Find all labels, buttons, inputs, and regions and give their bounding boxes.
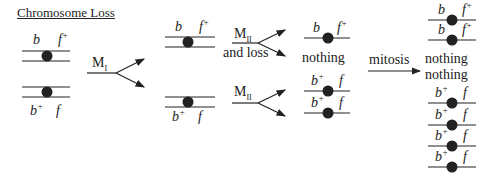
allele-label-b-plus: b+	[30, 104, 43, 118]
allele-label-f-plus: f+	[199, 20, 209, 34]
allele-label-f: f	[463, 129, 467, 143]
middle-chromosome-pair-1	[165, 37, 215, 48]
nothing-label: nothing	[425, 52, 468, 66]
allele-label-b-plus: b+	[435, 86, 448, 100]
nothing-label: nothing	[302, 51, 345, 65]
allele-label-b-plus: b+	[311, 96, 324, 110]
allele-label-b-plus: b+	[435, 129, 448, 143]
nothing-label: nothing	[425, 68, 468, 82]
allele-label-f-plus: f+	[58, 33, 68, 47]
allele-label-b: b	[438, 3, 445, 17]
allele-label-f-plus: f+	[462, 3, 472, 17]
left-chromosome-pair-1	[22, 51, 70, 62]
allele-label-b: b	[438, 23, 445, 37]
allele-label-b-plus: b+	[311, 74, 324, 88]
allele-label-f: f	[56, 104, 60, 118]
allele-label-b: b	[33, 33, 40, 47]
mitosis-label: mitosis	[369, 53, 409, 67]
meiosis2-label: MII	[234, 85, 252, 102]
middle-chromosome-pair-2	[165, 97, 215, 108]
allele-label-f: f	[339, 74, 343, 88]
allele-label-f-plus: f+	[337, 21, 347, 35]
allele-label-b-plus: b+	[435, 108, 448, 122]
meiosis2-loss-label: MII	[234, 27, 252, 44]
meiosis1-label: MI	[92, 56, 107, 73]
allele-label-f: f	[463, 86, 467, 100]
left-chromosome-pair-2	[22, 87, 70, 98]
allele-label-b-plus: b+	[435, 150, 448, 164]
chromosome-loss-diagram: Chromosome Loss b f+ b+ f MI b f+ b+ f M…	[0, 0, 492, 178]
allele-label-f: f	[339, 96, 343, 110]
allele-label-b: b	[313, 21, 320, 35]
diagram-title: Chromosome Loss	[17, 5, 115, 21]
allele-label-f: f	[198, 110, 202, 124]
and-loss-label: and loss	[223, 46, 269, 60]
allele-label-b-plus: b+	[172, 110, 185, 124]
allele-label-f: f	[463, 108, 467, 122]
allele-label-f: f	[463, 150, 467, 164]
allele-label-b: b	[175, 20, 182, 34]
allele-label-f-plus: f+	[462, 23, 472, 37]
